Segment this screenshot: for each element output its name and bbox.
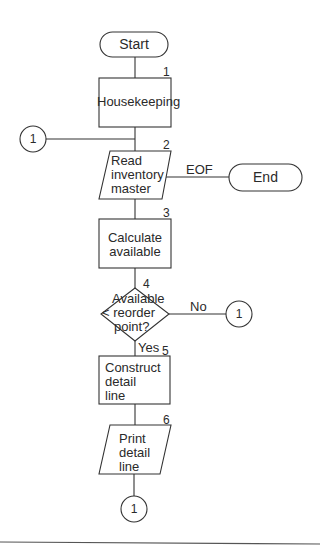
step-1-label: Housekeeping — [97, 95, 173, 109]
step-3-line-2: available — [99, 245, 171, 259]
entry-connector-label: 1 — [20, 132, 46, 146]
step-6-line-1: Print — [119, 432, 169, 446]
step-2-line-3: master — [111, 182, 171, 196]
step-3-label: Calculate available — [99, 231, 171, 259]
step-5-line-3: line — [105, 389, 169, 403]
eof-branch-label: EOF — [186, 163, 213, 177]
step-6-line-2: detail — [119, 446, 169, 460]
no-branch-label: No — [190, 300, 207, 314]
no-connector-label: 1 — [226, 307, 252, 321]
step-4-label: Available < reorder point? — [102, 292, 172, 334]
step-6-label: Print detail line — [119, 432, 169, 474]
step-2-label: Read inventory master — [111, 154, 171, 196]
step-5-line-2: detail — [105, 375, 169, 389]
step-number-5: 5 — [162, 345, 169, 357]
step-5-label: Construct detail line — [105, 361, 169, 403]
step-number-2: 2 — [163, 139, 170, 151]
step-2-line-2: inventory — [111, 168, 171, 182]
step-4-line-1: Available — [102, 292, 172, 306]
bottom-connector-label: 1 — [121, 502, 147, 516]
page-bottom-rule — [0, 542, 320, 544]
start-label: Start — [100, 37, 168, 52]
step-number-6: 6 — [163, 414, 170, 426]
step-2-line-1: Read — [111, 154, 171, 168]
step-number-1: 1 — [163, 66, 170, 78]
end-label: End — [229, 170, 302, 185]
step-number-4: 4 — [143, 278, 150, 290]
step-4-line-3: point? — [102, 320, 172, 334]
step-6-line-3: line — [119, 460, 169, 474]
yes-branch-label: Yes — [138, 341, 159, 355]
step-number-3: 3 — [163, 207, 170, 219]
step-3-line-1: Calculate — [99, 231, 171, 245]
step-4-line-2: < reorder — [102, 306, 172, 320]
step-5-line-1: Construct — [105, 361, 169, 375]
